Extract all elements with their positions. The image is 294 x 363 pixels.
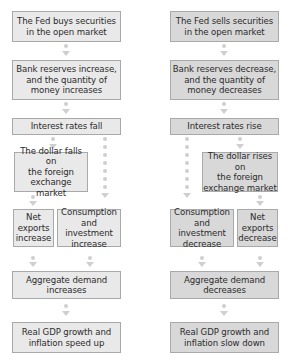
right-aggregate-demand-box: Aggregate demand decreases — [170, 271, 279, 299]
left-arrow-6 — [62, 304, 70, 317]
right-outcome-box: Real GDP growth and inflation slow down — [170, 322, 279, 353]
right-dollar-box: The dollar rises on the foreign exchange… — [202, 152, 278, 192]
right-fed-sells-box: The Fed sells securities in the open mar… — [170, 11, 279, 42]
right-aggregate-demand-text: Aggregate demand decreases — [184, 275, 265, 296]
right-arrow-4 — [256, 195, 264, 207]
left-fed-buys-box: The Fed buys securities in the open mark… — [12, 11, 121, 42]
left-consumption-text: Consumption and investment increase — [58, 207, 120, 249]
left-outcome-text: Real GDP growth and inflation speed up — [22, 327, 111, 348]
left-arrow-2 — [62, 102, 70, 116]
right-arrow-6 — [220, 304, 228, 317]
right-arrow-5a — [198, 256, 206, 268]
left-consumption-box: Consumption and investment increase — [57, 209, 121, 247]
left-fed-buys-text: The Fed buys securities in the open mark… — [17, 16, 116, 37]
right-reserves-text: Bank reserves decrease, and the quantity… — [173, 64, 276, 96]
left-interest-box: Interest rates fall — [12, 118, 121, 135]
right-arrow-1 — [220, 44, 228, 58]
right-net-exports-box: Net exports decrease — [237, 209, 278, 247]
left-aggregate-demand-text: Aggregate demand increases — [26, 275, 107, 296]
left-reserves-box: Bank reserves increase, and the quantity… — [12, 60, 121, 100]
left-outcome-box: Real GDP growth and inflation speed up — [12, 322, 121, 353]
left-interest-text: Interest rates fall — [31, 121, 103, 132]
left-arrow-4 — [29, 195, 37, 207]
left-arrow-1 — [62, 44, 70, 58]
right-consumption-box: Consumption and investment decrease — [170, 209, 234, 247]
right-interest-text: Interest rates rise — [187, 121, 261, 132]
right-arrow-2 — [220, 102, 228, 116]
right-fed-sells-text: The Fed sells securities in the open mar… — [176, 16, 273, 37]
right-reserves-box: Bank reserves decrease, and the quantity… — [170, 60, 279, 100]
left-dollar-box: The dollar falls on the foreign exchange… — [14, 152, 88, 192]
right-outcome-text: Real GDP growth and inflation slow down — [180, 327, 269, 348]
left-arrow-5a — [29, 256, 37, 268]
left-reserves-text: Bank reserves increase, and the quantity… — [16, 64, 116, 96]
right-arrow-long — [183, 137, 191, 203]
right-arrow-5b — [256, 256, 264, 268]
left-dollar-text: The dollar falls on the foreign exchange… — [15, 146, 87, 199]
left-arrow-5b — [86, 256, 94, 268]
right-interest-box: Interest rates rise — [170, 118, 279, 135]
right-dollar-text: The dollar rises on the foreign exchange… — [203, 151, 277, 193]
right-consumption-text: Consumption and investment decrease — [171, 207, 233, 249]
left-net-exports-text: Net exports increase — [16, 212, 51, 244]
right-arrow-3 — [236, 137, 244, 151]
left-net-exports-box: Net exports increase — [13, 209, 54, 247]
right-net-exports-text: Net exports decrease — [238, 212, 276, 244]
left-aggregate-demand-box: Aggregate demand increases — [12, 271, 121, 299]
left-arrow-long — [101, 137, 109, 203]
